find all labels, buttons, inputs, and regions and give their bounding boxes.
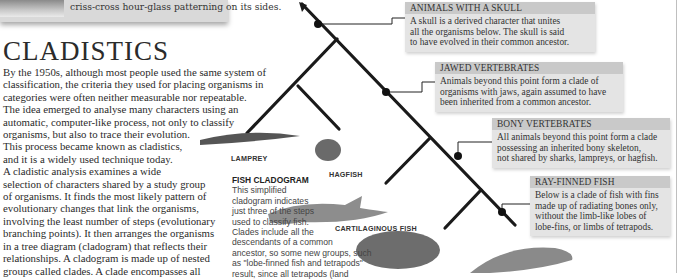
info-line: All animals beyond this point form a cla… — [497, 132, 665, 143]
node-jawed — [382, 88, 390, 96]
caption-line: This simplified — [232, 185, 332, 195]
info-line: A skull is a derived character that unit… — [410, 16, 590, 27]
info-title: Ray-finned fish — [530, 176, 670, 188]
info-line: lobe-fins, or limbs of tetrapods. — [535, 222, 665, 233]
caption-line: descendants of a common — [232, 237, 332, 247]
info-box-skull: Animals with a skull A skull is a derive… — [405, 2, 595, 52]
info-body: A skull is a derived character that unit… — [405, 14, 595, 52]
node-ray-finned — [498, 208, 506, 216]
info-body: All animals beyond this point form a cla… — [492, 130, 670, 168]
info-line: organisms with jaws, again assumed to ha… — [440, 87, 618, 98]
info-line: to have evolved in their common ancestor… — [410, 37, 590, 48]
ray-finned-fish-illustration — [470, 248, 572, 273]
info-body: Animals beyond this point form a clade o… — [435, 74, 623, 112]
info-line: made up of radiating bones only, — [535, 201, 665, 212]
info-box-jawed: Jawed vertebrates Animals beyond this po… — [435, 62, 623, 112]
caption-line: just three of the steps — [232, 206, 332, 216]
caption-line: Clades include all the — [232, 227, 332, 237]
info-title: Bony vertebrates — [492, 118, 670, 130]
lamprey-illustration — [200, 133, 300, 145]
caption-line: used to classify fish. — [232, 217, 332, 227]
info-title: Animals with a skull — [405, 2, 595, 14]
caption-line: result, since all tetrapods (land — [232, 269, 332, 279]
info-line: possessing an inherited bony skeleton, — [497, 143, 665, 154]
info-line: not shared by sharks, lampreys, or hagfi… — [497, 153, 665, 164]
info-line: Animals beyond this point form a clade o… — [440, 76, 618, 87]
caption-title: FISH CLADOGRAM — [232, 175, 332, 185]
info-title: Jawed vertebrates — [435, 62, 623, 74]
hagfish-illustration — [315, 139, 341, 161]
caption-line: as "lobe-finned fish and tetrapods" — [232, 258, 332, 268]
node-bony — [454, 152, 462, 160]
info-body: Below is a clade of fish with fins made … — [530, 188, 670, 236]
info-line: all the organisms below. The skull is sa… — [410, 27, 590, 38]
info-line: Below is a clade of fish with fins — [535, 190, 665, 201]
node-skull — [314, 20, 322, 28]
info-line: been inherited from a common ancestor. — [440, 97, 618, 108]
info-box-ray-finned: Ray-finned fish Below is a clade of fish… — [530, 176, 670, 236]
caption-line: cladogram indicates — [232, 196, 332, 206]
label-cartilaginous-fish: CARTILAGINOUS FISH — [335, 224, 417, 233]
label-hagfish: HAGFISH — [329, 170, 363, 179]
page-edge-rule — [676, 0, 677, 273]
caption-line: ancestor, so some new groups, such — [232, 248, 332, 258]
label-lamprey: LAMPREY — [231, 154, 268, 163]
info-box-bony: Bony vertebrates All animals beyond this… — [492, 118, 670, 168]
fish-cladogram-caption: FISH CLADOGRAM This simplified cladogram… — [232, 175, 332, 279]
info-line: without the limb-like lobes of — [535, 211, 665, 222]
